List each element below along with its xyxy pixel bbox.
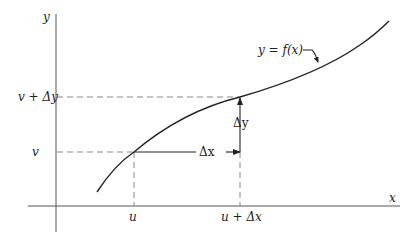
dx-label: Δx <box>199 145 215 159</box>
curve-label: y = f(x) <box>257 43 303 57</box>
curve-label-leader <box>303 50 318 62</box>
u-label: u <box>129 210 137 224</box>
increment-diagram: y x Δx Δy v v + Δy u u + Δx y = f(x) <box>0 0 414 240</box>
function-curve <box>97 21 389 192</box>
v-plus-dy-label: v + Δy <box>18 90 58 104</box>
dy-label: Δy <box>233 116 249 130</box>
y-axis-label: y <box>42 10 50 24</box>
x-axis-label: x <box>389 191 396 205</box>
v-label: v <box>32 145 39 159</box>
u-plus-dx-label: u + Δx <box>221 210 262 224</box>
